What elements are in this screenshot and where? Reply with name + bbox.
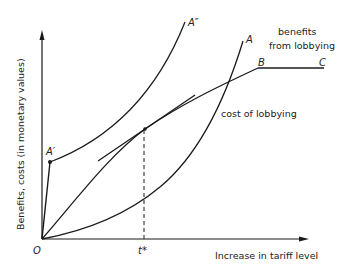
label-c: C — [319, 57, 326, 68]
label-a-prime: A′ — [45, 146, 56, 157]
point-a-prime — [48, 160, 52, 164]
benefits-curve — [42, 68, 324, 239]
label-a: A — [245, 34, 253, 45]
x-axis-arrow-icon — [299, 237, 309, 242]
benefits-annotation-line2: from lobbying — [269, 40, 335, 51]
lobbying-diagram: Benefits, costs (in monetary values) Inc… — [0, 0, 346, 276]
label-b: B — [258, 57, 265, 68]
y-axis — [40, 30, 45, 239]
cost-annotation: cost of lobbying — [221, 108, 297, 119]
label-a-double-prime: A″ — [187, 17, 199, 28]
y-axis-label: Benefits, costs (in monetary values) — [15, 58, 26, 230]
cost-curve — [42, 41, 243, 239]
x-axis-label: Increase in tariff level — [215, 250, 318, 261]
curve-a-double-prime — [42, 22, 185, 239]
t-star-label: t* — [138, 245, 147, 256]
benefits-annotation-line1: benefits — [278, 26, 316, 37]
tangent-line — [98, 95, 195, 161]
y-axis-arrow-icon — [40, 30, 45, 40]
x-axis — [42, 237, 309, 242]
origin-label: O — [33, 245, 41, 256]
